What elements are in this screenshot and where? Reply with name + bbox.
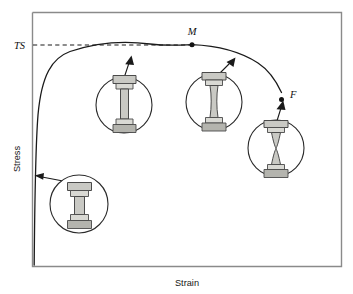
specimen-callout-necking [186, 73, 242, 132]
fracture-point-label: F [289, 89, 297, 100]
stress-strain-figure: TS M F Stress Strain [0, 0, 353, 294]
specimen-callout-uniform [96, 76, 152, 134]
y-axis-label: Stress [12, 146, 22, 172]
callout-leader-undeformed [35, 173, 64, 181]
tensile-strength-label: TS [14, 40, 26, 51]
callout-leader-uniform [124, 56, 134, 79]
maximum-point-label: M [187, 26, 198, 37]
specimen-callout-fracture [248, 120, 304, 178]
specimen-callout-undeformed [50, 175, 108, 233]
x-axis-label: Strain [175, 278, 199, 288]
maximum-point-marker [190, 42, 195, 47]
